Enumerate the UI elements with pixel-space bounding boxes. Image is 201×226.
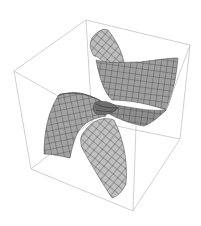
surface-lobe-right xyxy=(96,58,178,126)
surface-plot xyxy=(0,0,201,226)
box-edge-top-front-left xyxy=(14,71,58,96)
box-edge-bottom-front-right xyxy=(133,139,180,211)
surface-lobe-lower xyxy=(81,119,127,199)
box-edge-left-vertical xyxy=(14,71,31,169)
box-edge-top-back-left xyxy=(14,20,86,71)
box-edge-front-vertical xyxy=(133,126,136,211)
